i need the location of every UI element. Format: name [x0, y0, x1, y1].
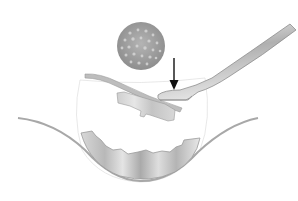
spatula-instrument [158, 24, 296, 100]
arrow-down-icon [170, 58, 179, 90]
lower-shaded-region [81, 131, 200, 179]
magnified-inset [117, 22, 165, 70]
surgical-illustration [0, 0, 298, 201]
